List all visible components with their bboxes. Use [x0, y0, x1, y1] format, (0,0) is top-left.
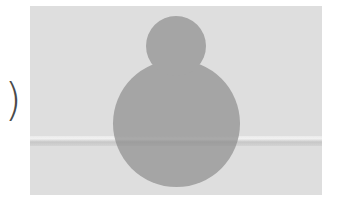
image-placeholder: [30, 6, 322, 195]
person-silhouette-head-icon: [146, 16, 206, 76]
closing-parenthesis: ): [2, 70, 24, 130]
person-silhouette-body-icon: [113, 60, 240, 187]
stage: ): [0, 0, 337, 207]
